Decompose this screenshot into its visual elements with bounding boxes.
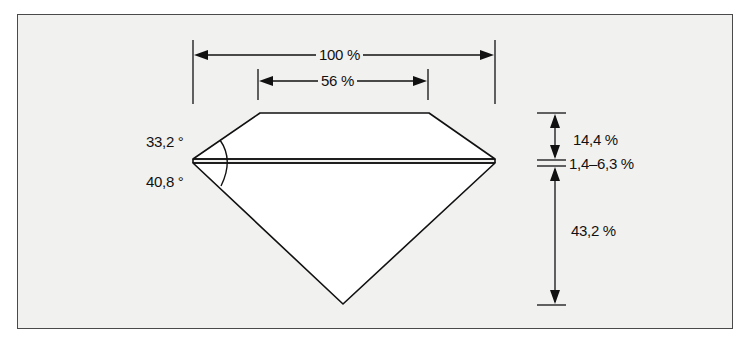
label-girdle: 1,4–6,3 % [569, 156, 634, 171]
label-crown-angle: 33,2 ° [146, 134, 184, 149]
label-pavilion-depth: 43,2 % [571, 223, 616, 238]
diamond-proportions-diagram [0, 0, 748, 347]
label-table: 56 % [318, 73, 357, 88]
diamond-shape [193, 113, 495, 304]
label-total-diameter: 100 % [316, 47, 363, 62]
label-pavilion-angle: 40,8 ° [146, 174, 184, 189]
dimension-heights [537, 113, 566, 305]
label-crown-height: 14,4 % [573, 132, 618, 147]
